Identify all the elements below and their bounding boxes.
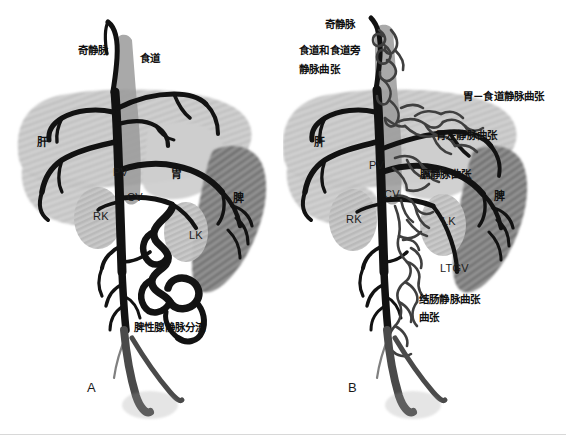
soft-shadow bbox=[122, 391, 178, 419]
label-right-kidney-a: RK bbox=[93, 210, 109, 223]
label-liver-a: 肝 bbox=[37, 136, 48, 149]
label-colonic-varices-line2: 曲张 bbox=[419, 311, 439, 324]
label-colonic-varices-line1: 结肠静脉曲张 bbox=[419, 293, 480, 306]
panel-b: 奇静脉 食道和食道旁 静脉曲张 胃－食道静脉曲张 胃左静脉曲张 肝 PV 膈静脉… bbox=[283, 0, 566, 435]
label-esophageal-varices-line2: 静脉曲张 bbox=[299, 63, 340, 76]
label-left-kidney-b: LK bbox=[442, 215, 456, 228]
label-esophageal-varices-line1: 食道和食道旁 bbox=[299, 44, 360, 57]
label-left-kidney-a: LK bbox=[189, 229, 203, 242]
label-spleen-b: 脾 bbox=[494, 190, 505, 203]
label-left-gastric-varices: 胃左静脉曲张 bbox=[436, 129, 497, 142]
label-stomach-a: 胃 bbox=[171, 168, 182, 181]
panel-letter-a: A bbox=[87, 381, 96, 394]
label-cava-vein-b: CV bbox=[384, 188, 400, 201]
label-gastro-esophageal-varices: 胃－食道静脉曲张 bbox=[463, 90, 545, 103]
figure-root: 奇静脉 食道 肝 PV 胃 脾 CV RK LK 脾性腺静脉分流 A bbox=[0, 0, 566, 435]
label-splenogonadal-shunt: 脾性腺静脉分流 bbox=[134, 321, 205, 334]
label-phrenic-varices: 膈静脉曲张 bbox=[420, 168, 471, 181]
label-azygos-vein-a: 奇静脉 bbox=[78, 44, 109, 57]
label-spleen-a: 脾 bbox=[233, 192, 244, 205]
label-cava-vein-a: CV bbox=[127, 191, 143, 204]
soft-shadow bbox=[385, 391, 441, 419]
label-liver-b: 肝 bbox=[314, 136, 325, 149]
panel-a-illustration bbox=[0, 0, 283, 435]
label-portal-vein-b: PV bbox=[369, 159, 384, 172]
label-esophagus-a: 食道 bbox=[140, 52, 160, 65]
label-azygos-vein-b: 奇静脉 bbox=[325, 18, 356, 31]
panel-letter-b: B bbox=[348, 381, 357, 394]
label-left-testicular-gonadal-vein: LTGV bbox=[440, 262, 469, 275]
panel-a: 奇静脉 食道 肝 PV 胃 脾 CV RK LK 脾性腺静脉分流 A bbox=[0, 0, 283, 435]
label-right-kidney-b: RK bbox=[346, 213, 362, 226]
label-portal-vein-a: PV bbox=[113, 166, 128, 179]
